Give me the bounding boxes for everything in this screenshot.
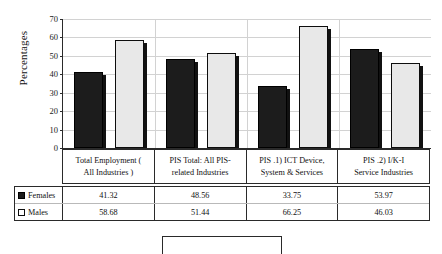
category-label-line: related Industries: [172, 167, 229, 179]
value-cell-females-3: 33.75: [247, 187, 339, 203]
legend-label: Males: [28, 208, 48, 217]
bar-females-1: [74, 72, 104, 148]
legend-swatch-icon: [18, 209, 25, 216]
bar-face: [115, 40, 145, 148]
bar-females-4: [350, 49, 380, 148]
category-label-line: PIS .1) ICT Device,: [259, 155, 324, 167]
value-cell-males-2: 51.44: [155, 204, 247, 220]
category-label-line: System & Services: [261, 167, 323, 179]
category-label-4: PIS .2) I/K-IService Industries: [338, 150, 429, 183]
value-cell-males-3: 66.25: [247, 204, 339, 220]
bar-face: [350, 49, 380, 148]
series-value-table: Females41.3248.5633.7553.97Males58.6851.…: [14, 186, 430, 221]
bar-males-3: [299, 26, 329, 148]
bar-face: [258, 86, 288, 148]
category-label-1: Total Employment (All Industries ): [63, 150, 155, 183]
legend-label: Females: [28, 191, 55, 200]
table-row: Females41.3248.5633.7553.97: [15, 187, 429, 204]
category-label-line: PIS .2) I/K-I: [363, 155, 404, 167]
bar-face: [391, 63, 421, 148]
bar-females-2: [166, 59, 196, 148]
bar-face: [166, 59, 196, 148]
value-cell-males-4: 46.03: [338, 204, 429, 220]
category-label-3: PIS .1) ICT Device,System & Services: [247, 150, 339, 183]
bar-males-4: [391, 63, 421, 148]
bar-face: [299, 26, 329, 148]
bar-males-1: [115, 40, 145, 148]
value-cell-males-1: 58.68: [63, 204, 155, 220]
category-label-line: All Industries ): [84, 167, 134, 179]
bar-females-3: [258, 86, 288, 148]
category-label-line: PIS Total: All PIS-: [169, 155, 230, 167]
legend-swatch-icon: [18, 192, 25, 199]
value-cell-females-1: 41.32: [63, 187, 155, 203]
legend-item-males[interactable]: Males: [15, 204, 63, 220]
value-cell-females-2: 48.56: [155, 187, 247, 203]
bar-face: [74, 72, 104, 148]
bar-males-2: [207, 53, 237, 148]
category-label-line: Total Employment (: [75, 155, 141, 167]
category-label-line: Service Industries: [354, 167, 413, 179]
legend-item-females[interactable]: Females: [15, 187, 63, 203]
category-header-row: Total Employment (All Industries )PIS To…: [62, 149, 430, 184]
bottom-empty-box: [162, 236, 282, 254]
table-row: Males58.6851.4466.2546.03: [15, 204, 429, 220]
bar-face: [207, 53, 237, 148]
category-label-2: PIS Total: All PIS-related Industries: [155, 150, 247, 183]
value-cell-females-4: 53.97: [338, 187, 429, 203]
